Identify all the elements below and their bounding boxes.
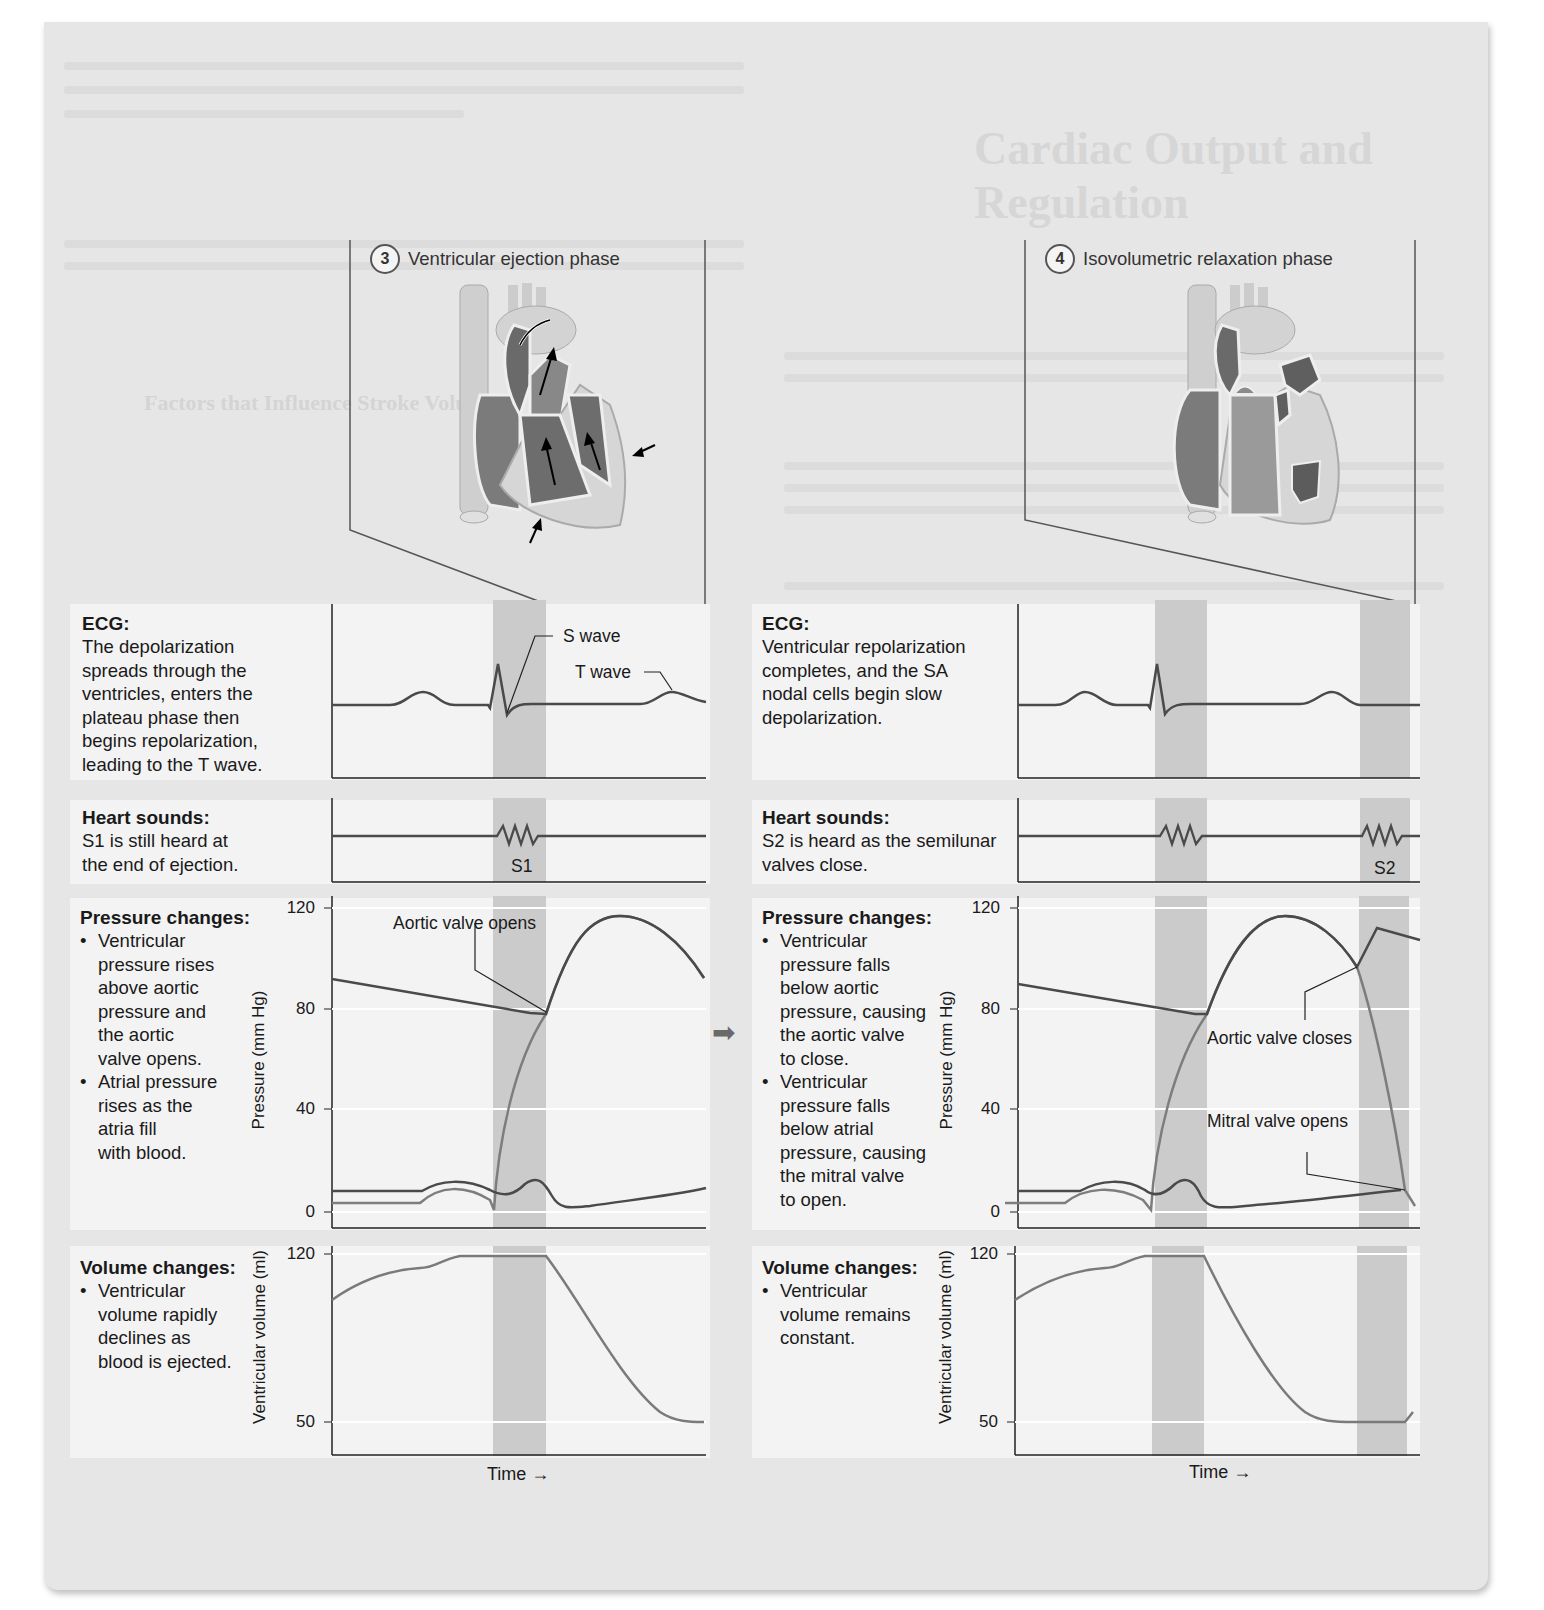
arrow-right-icon: → [531, 1464, 549, 1484]
ecg-line: nodal cells begin slow [762, 682, 1002, 706]
bullet-line: the mitral valve [780, 1164, 962, 1188]
heart-relaxation-illustration [1160, 285, 1360, 545]
left-sounds-description: Heart sounds: S1 is still heard at the e… [82, 806, 238, 876]
s-wave-label: S wave [563, 626, 620, 647]
right-sounds-description: Heart sounds: S2 is heard as the semilun… [762, 806, 996, 876]
heart-cross-section-ejection-icon [460, 283, 655, 543]
t-wave-label: T wave [575, 662, 631, 683]
y-tick: 120 [275, 898, 315, 918]
left-volume-description: Volume changes: Ventricular volume rapid… [80, 1256, 260, 1373]
time-axis-label: Time → [487, 1464, 549, 1485]
pressure-title: Pressure changes: [762, 906, 962, 929]
sounds-line: S1 is still heard at [82, 829, 238, 853]
bullet-line: volume rapidly [98, 1303, 260, 1327]
ecg-title: ECG: [82, 612, 322, 635]
bullet-line: Ventricular [98, 929, 260, 953]
pressure-axis-label: Pressure (mm Hg) [249, 985, 269, 1135]
phase-number-badge: 4 [1045, 244, 1075, 274]
shade-band [493, 1246, 546, 1456]
volume-bullet: Ventricular volume rapidly declines as b… [80, 1279, 260, 1373]
right-ecg-description: ECG: Ventricular repolarization complete… [762, 612, 1002, 729]
shade-band [1360, 600, 1410, 778]
bullet-line: pressure and [98, 1000, 260, 1024]
volume-axis-label: Ventricular volume (ml) [936, 1242, 956, 1432]
aortic-valve-closes-label: Aortic valve closes [1207, 1028, 1352, 1049]
y-tick: 0 [275, 1202, 315, 1222]
bullet-line: rises as the [98, 1094, 260, 1118]
y-tick: 40 [960, 1099, 1000, 1119]
shade-band [1357, 1246, 1407, 1456]
y-tick: 120 [958, 1244, 998, 1264]
bullet-line: above aortic [98, 976, 260, 1000]
left-pressure-description: Pressure changes: Ventricular pressure r… [80, 906, 260, 1164]
ecg-trace [1018, 664, 1420, 714]
bullet-line: below atrial [780, 1117, 962, 1141]
bullet-line: atria fill [98, 1117, 260, 1141]
time-text: Time [1189, 1462, 1228, 1482]
bullet-line: valve opens. [98, 1047, 260, 1071]
volume-title: Volume changes: [80, 1256, 260, 1279]
aortic-valve-opens-label: Aortic valve opens [393, 913, 536, 934]
bullet-line: volume remains [780, 1303, 942, 1327]
bullet-line: pressure rises [98, 953, 260, 977]
volume-axis-label: Ventricular volume (ml) [250, 1242, 270, 1432]
ecg-line: Ventricular repolarization [762, 635, 1002, 659]
sounds-title: Heart sounds: [82, 806, 238, 829]
shade-band [1152, 1246, 1204, 1456]
bullet-line: pressure falls [780, 1094, 962, 1118]
time-axis-label: Time → [1189, 1462, 1251, 1483]
y-tick: 80 [275, 999, 315, 1019]
pressure-axis-label: Pressure (mm Hg) [937, 985, 957, 1135]
y-tick: 50 [958, 1412, 998, 1432]
bullet-line: to open. [780, 1188, 962, 1212]
bullet-line: pressure, causing [780, 1000, 962, 1024]
ecg-line: ventricles, enters the [82, 682, 322, 706]
left-ecg-description: ECG: The depolarization spreads through … [82, 612, 322, 776]
ecg-line: plateau phase then [82, 706, 322, 730]
sounds-line: valves close. [762, 853, 996, 877]
left-graphs [320, 600, 720, 1480]
bullet-line: pressure falls [780, 953, 962, 977]
volume-bullet: Ventricular volume remains constant. [762, 1279, 942, 1350]
next-phase-arrow-icon: ➡ [712, 1016, 735, 1049]
shade-band [493, 600, 546, 778]
bullet-line: declines as [98, 1326, 260, 1350]
bullet-line: Ventricular [98, 1279, 260, 1303]
sounds-line: S2 is heard as the semilunar [762, 829, 996, 853]
pressure-bullet: Ventricular pressure falls below aortic … [762, 929, 962, 1070]
y-tick: 80 [960, 999, 1000, 1019]
phase-title: Isovolumetric relaxation phase [1083, 248, 1333, 270]
right-volume-description: Volume changes: Ventricular volume remai… [762, 1256, 942, 1350]
pressure-bullet: Ventricular pressure rises above aortic … [80, 929, 260, 1070]
y-tick: 50 [275, 1412, 315, 1432]
bullet-line: below aortic [780, 976, 962, 1000]
y-tick: 120 [960, 898, 1000, 918]
bullet-line: to close. [780, 1047, 962, 1071]
bullet-line: constant. [780, 1326, 942, 1350]
heart-sound-trace [1018, 826, 1420, 844]
ecg-line: spreads through the [82, 659, 322, 683]
right-phase-heading: 4 Isovolumetric relaxation phase [1045, 244, 1333, 274]
sounds-line: the end of ejection. [82, 853, 238, 877]
shade-band [493, 896, 546, 1228]
bullet-line: blood is ejected. [98, 1350, 260, 1374]
ecg-line: leading to the T wave. [82, 753, 322, 777]
shade-band [1155, 600, 1207, 778]
time-text: Time [487, 1464, 526, 1484]
mitral-valve-opens-label: Mitral valve opens [1207, 1111, 1348, 1132]
sounds-title: Heart sounds: [762, 806, 996, 829]
bullet-line: Ventricular [780, 1070, 962, 1094]
ecg-line: completes, and the SA [762, 659, 1002, 683]
y-tick: 0 [960, 1202, 1000, 1222]
heart-cross-section-relaxation-icon [1174, 283, 1338, 524]
pressure-bullet: Atrial pressure rises as the atria fill … [80, 1070, 260, 1164]
s1-label: S1 [511, 856, 532, 877]
heart-ejection-illustration [460, 285, 660, 565]
volume-title: Volume changes: [762, 1256, 942, 1279]
bullet-line: with blood. [98, 1141, 260, 1165]
y-tick: 120 [275, 1244, 315, 1264]
bullet-line: pressure, causing [780, 1141, 962, 1165]
ecg-line: begins repolarization, [82, 729, 322, 753]
y-tick: 40 [275, 1099, 315, 1119]
bullet-line: Ventricular [780, 929, 962, 953]
